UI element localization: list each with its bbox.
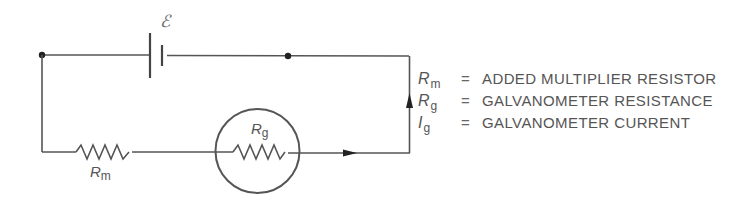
battery-icon xyxy=(150,33,162,78)
legend-symbol: Ig xyxy=(418,112,454,135)
equals-sign: = xyxy=(461,68,470,90)
legend-description: GALVANOMETER CURRENT xyxy=(482,112,690,134)
equals-sign: = xyxy=(461,112,470,134)
resistor-rm-icon xyxy=(76,145,129,159)
current-arrow-up-icon xyxy=(406,93,413,108)
current-arrow-right-icon xyxy=(343,150,357,157)
equals-sign: = xyxy=(461,90,470,112)
junction-node-right xyxy=(285,53,291,59)
legend-symbol: Rg xyxy=(418,90,454,113)
legend-symbol: Rm xyxy=(418,68,454,91)
emf-label: ℰ xyxy=(160,11,172,31)
resistor-rg-icon xyxy=(233,145,285,159)
resistor-rm-label: Rm xyxy=(90,163,111,183)
resistor-rg-label: Rg xyxy=(251,120,269,140)
legend-description: GALVANOMETER RESISTANCE xyxy=(482,90,713,112)
legend-description: ADDED MULTIPLIER RESISTOR xyxy=(482,68,717,90)
